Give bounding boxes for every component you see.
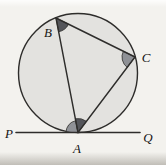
point-label-C: C [142,50,151,65]
point-label-B: B [44,25,52,40]
point-label-A: A [72,141,81,156]
point-label-Q: Q [143,130,153,145]
diagram-svg: BCAPQ [0,0,166,165]
geometry-figure: BCAPQ [0,0,166,165]
point-label-P: P [4,126,13,141]
circle [19,14,138,133]
